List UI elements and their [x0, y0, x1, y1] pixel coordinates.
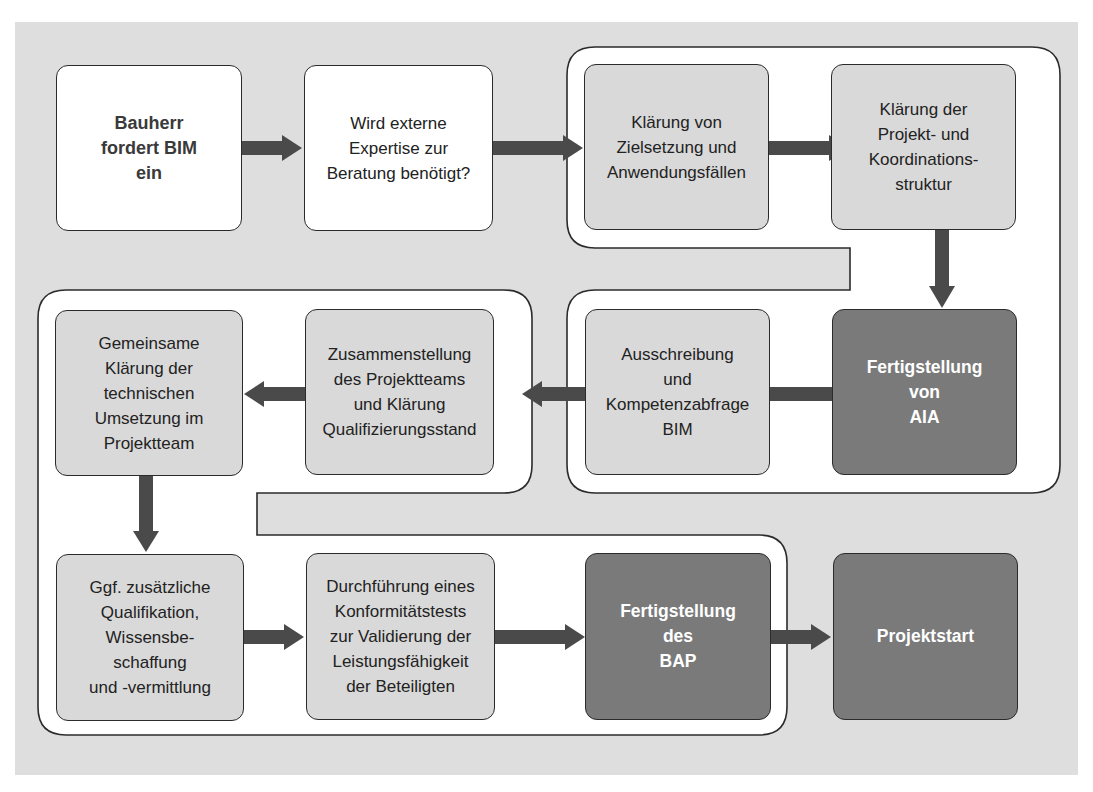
- step-fertigstellung-aia: Fertigstellung von AIA: [832, 309, 1017, 475]
- step-klaerung-zielsetzung: Klärung von Zielsetzung und Anwendungsfä…: [584, 64, 769, 230]
- step-fertigstellung-bap: Fertigstellung des BAP: [585, 553, 771, 720]
- arrow-right-icon: [243, 624, 304, 650]
- flowchart-canvas: Bauherr fordert BIM ein Wird externe Exp…: [0, 0, 1093, 792]
- step-zusaetzliche-qualifikation: Ggf. zusätzliche Qualifikation, Wissensb…: [56, 554, 244, 721]
- step-label: Klärung der Projekt- und Koordinations- …: [869, 97, 979, 197]
- arrow-left-icon: [244, 381, 305, 407]
- step-externe-expertise-frage: Wird externe Expertise zur Beratung benö…: [304, 65, 493, 231]
- step-label: Zusammenstellung des Projektteams und Kl…: [322, 342, 476, 442]
- step-projektstart: Projektstart: [833, 553, 1018, 720]
- arrow-right-icon: [770, 624, 831, 650]
- step-label: Gemeinsame Klärung der technischen Umset…: [95, 331, 204, 456]
- step-bauherr-fordert-bim: Bauherr fordert BIM ein: [56, 65, 242, 231]
- step-ausschreibung-kompetenzabfrage: Ausschreibung und Kompetenzabfrage BIM: [585, 309, 770, 475]
- step-zusammenstellung-projektteam: Zusammenstellung des Projektteams und Kl…: [305, 309, 494, 475]
- step-label: Ausschreibung und Kompetenzabfrage BIM: [606, 342, 750, 442]
- step-label: Fertigstellung des BAP: [620, 599, 736, 674]
- step-konformitaetstest: Durchführung eines Konformitätstests zur…: [306, 553, 495, 720]
- step-label: Klärung von Zielsetzung und Anwendungsfä…: [607, 110, 746, 185]
- step-label: Bauherr fordert BIM ein: [101, 111, 197, 186]
- step-label: Fertigstellung von AIA: [867, 355, 983, 430]
- arrow-down-icon: [929, 230, 955, 308]
- arrow-right-icon: [241, 135, 302, 161]
- step-klaerung-projektstruktur: Klärung der Projekt- und Koordinations- …: [831, 64, 1016, 230]
- arrow-right-icon: [494, 624, 585, 650]
- arrow-right-icon: [492, 135, 583, 161]
- step-label: Ggf. zusätzliche Qualifikation, Wissensb…: [89, 575, 211, 700]
- step-label: Wird externe Expertise zur Beratung benö…: [327, 111, 471, 186]
- step-label: Durchführung eines Konformitätstests zur…: [326, 574, 474, 699]
- step-label: Projektstart: [877, 624, 974, 649]
- arrow-down-icon: [133, 475, 159, 552]
- step-technische-umsetzung: Gemeinsame Klärung der technischen Umset…: [55, 310, 243, 476]
- arrow-left-icon: [522, 381, 585, 407]
